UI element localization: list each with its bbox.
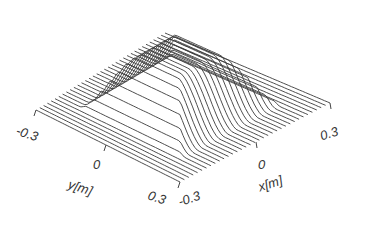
y-tick-mid: 0 [93,157,100,172]
surface-slice-line [101,46,256,143]
surface-slice-line [127,40,286,126]
surface-slice-line [51,101,197,173]
surface-slice-line [157,38,321,108]
surface-slice-line [74,72,224,159]
x-tick-mid: 0 [258,157,265,172]
surface-slice-line [154,40,317,110]
surface-slice-line [165,33,330,103]
surface-slice-line [55,99,202,171]
surface-slice-line [150,42,313,112]
surface-lines [36,33,330,182]
surface-slice-line [36,110,180,182]
surface-slice-line [44,106,189,178]
surface-slice-line [66,91,215,163]
surface-plot [0,0,366,225]
surface-slice-line [123,37,281,129]
surface-slice-line [47,103,193,175]
surface-slice-line [161,35,325,105]
surface-slice-line [146,44,308,114]
